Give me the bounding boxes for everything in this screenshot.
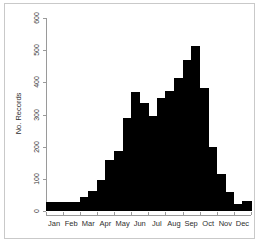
x-axis-tick bbox=[46, 212, 47, 215]
x-axis-tick-label: Dec bbox=[228, 219, 256, 228]
y-axis-tick-label: 300 bbox=[32, 104, 42, 126]
x-axis-tick bbox=[63, 212, 64, 215]
y-axis-title: No. Records bbox=[14, 83, 23, 143]
y-axis-tick-label: 500 bbox=[32, 39, 42, 61]
y-axis-tick-label: 200 bbox=[32, 136, 42, 158]
x-axis-tick bbox=[251, 212, 252, 215]
x-axis-tick bbox=[234, 212, 235, 215]
x-axis-tick bbox=[131, 212, 132, 215]
y-axis-tick bbox=[43, 115, 46, 116]
x-axis-tick bbox=[80, 212, 81, 215]
x-axis-line bbox=[46, 215, 252, 216]
y-axis-tick-label: 100 bbox=[32, 168, 42, 190]
y-axis-tick bbox=[43, 147, 46, 148]
y-axis-tick bbox=[43, 179, 46, 180]
y-axis-tick bbox=[43, 50, 46, 51]
x-axis-tick bbox=[97, 212, 98, 215]
y-axis-line bbox=[46, 18, 47, 211]
x-axis-tick bbox=[217, 212, 218, 215]
y-axis-tick-label: 400 bbox=[32, 71, 42, 93]
x-axis-tick bbox=[114, 212, 115, 215]
histogram-bar bbox=[242, 201, 251, 211]
histogram-chart: No. Records 0100200300400500600 JanFebMa… bbox=[0, 0, 260, 244]
y-axis-tick bbox=[43, 18, 46, 19]
x-axis-tick bbox=[148, 212, 149, 215]
x-axis-tick bbox=[183, 212, 184, 215]
y-axis-tick-label: 600 bbox=[32, 7, 42, 29]
x-axis-tick bbox=[200, 212, 201, 215]
y-axis-tick bbox=[43, 82, 46, 83]
x-axis-tick bbox=[165, 212, 166, 215]
